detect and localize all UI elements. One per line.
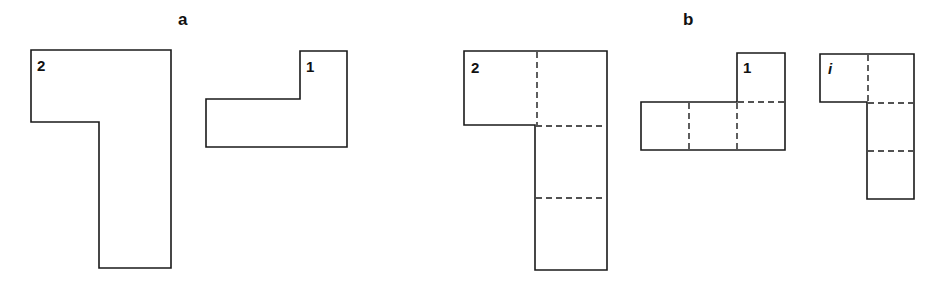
panel-label-a: a — [178, 11, 187, 28]
panel-a-shape-2-outline — [31, 50, 171, 268]
panel-b-shape-i-label: i — [828, 61, 832, 76]
panel-b-shape-2-label: 2 — [471, 60, 479, 75]
panel-label-b: b — [683, 11, 693, 28]
panel-b-shape-2-outline — [464, 51, 607, 270]
panel-a-shape-1-label: 1 — [306, 59, 314, 74]
panel-b-shape-i-outline — [820, 54, 914, 199]
panel-b-shape-1-label: 1 — [743, 60, 751, 75]
diagram-canvas — [0, 0, 949, 288]
panel-a-shape-2-label: 2 — [37, 58, 45, 73]
panel-a-shape-1-outline — [206, 51, 347, 147]
